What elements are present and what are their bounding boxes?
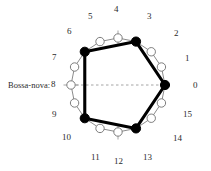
rest-node[interactable]: [70, 63, 78, 71]
pulse-number-11: 11: [91, 153, 100, 162]
onset-node[interactable]: [80, 114, 89, 123]
rest-node[interactable]: [147, 114, 155, 122]
pulse-number-1: 1: [185, 54, 190, 63]
rest-node[interactable]: [96, 37, 104, 45]
onset-node[interactable]: [131, 124, 140, 133]
onset-node[interactable]: [80, 47, 89, 56]
pulse-number-3: 3: [147, 12, 152, 21]
rest-node[interactable]: [70, 99, 78, 107]
rhythm-diagram-canvas: [0, 0, 211, 171]
rest-node[interactable]: [147, 48, 155, 56]
rest-node[interactable]: [114, 34, 122, 42]
pulse-number-13: 13: [143, 153, 152, 162]
rest-node[interactable]: [67, 81, 75, 89]
pulse-number-8: 8: [51, 80, 56, 89]
pulse-number-12: 12: [114, 157, 123, 166]
pulse-number-0: 0: [193, 81, 198, 90]
rest-node[interactable]: [96, 124, 104, 132]
rest-node[interactable]: [157, 99, 165, 107]
pulse-number-14: 14: [173, 134, 182, 143]
pulse-number-10: 10: [62, 133, 71, 142]
pulse-number-7: 7: [52, 53, 57, 62]
pulse-number-15: 15: [183, 110, 192, 119]
pulse-number-5: 5: [88, 12, 93, 21]
pulse-number-9: 9: [52, 110, 57, 119]
rest-node[interactable]: [114, 128, 122, 136]
rhythm-cycle-figure: Bossa-nova: 0123456789101112131415: [0, 0, 211, 171]
rest-node[interactable]: [157, 63, 165, 71]
pulse-number-6: 6: [67, 27, 72, 36]
pulse-number-2: 2: [174, 29, 179, 38]
onset-node[interactable]: [160, 80, 169, 89]
pulse-number-4: 4: [114, 5, 119, 14]
onset-node[interactable]: [131, 37, 140, 46]
